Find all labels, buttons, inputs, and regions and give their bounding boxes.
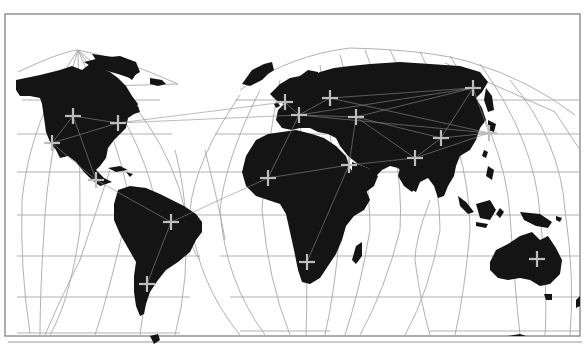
world-map: [0, 0, 588, 353]
cuba: [108, 166, 128, 172]
borneo: [476, 200, 496, 220]
new-guinea: [520, 212, 552, 228]
south-america: [114, 186, 202, 316]
hispaniola: [126, 172, 133, 177]
meridian-line: [415, 200, 430, 335]
madagascar: [352, 242, 362, 264]
antarctic-fragment: [508, 334, 526, 336]
australia: [490, 232, 562, 286]
philippines: [486, 166, 494, 180]
pacific-island: [556, 216, 562, 222]
sumatra: [458, 196, 474, 214]
route-line: [118, 115, 299, 123]
taiwan: [482, 150, 488, 158]
japan: [484, 88, 494, 112]
route-line: [118, 102, 285, 123]
java: [476, 222, 488, 228]
meridian-line: [220, 90, 265, 335]
sulawesi: [496, 208, 504, 218]
new-zealand: [576, 296, 580, 308]
meridian-line: [45, 170, 110, 335]
iceland: [242, 62, 274, 86]
tasmania: [544, 294, 552, 300]
